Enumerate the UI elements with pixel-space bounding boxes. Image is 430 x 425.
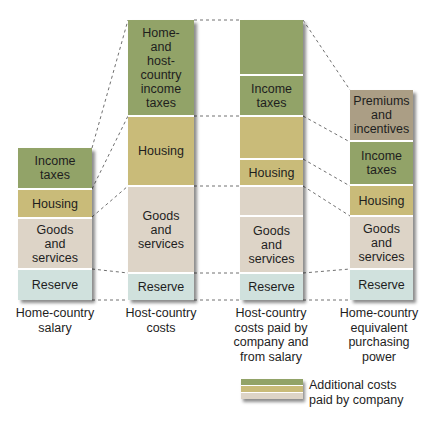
caption-host-country-costs: Host-countrycosts [108, 306, 214, 335]
segment-housing-paid-by-company [240, 117, 303, 158]
segment-housing: Housing [240, 160, 303, 185]
segment-premiums-and-incentives: Premiumsandincentives [350, 90, 413, 140]
segment-label: Reserve [358, 278, 405, 292]
segment-label: Goodsandservices [32, 223, 78, 265]
segment-label: Goodsandservices [249, 224, 295, 266]
segment-income-taxes: Incometaxes [18, 148, 92, 188]
segment-reserve: Reserve [350, 270, 413, 300]
segment-label: Home-andhost-countryincometaxes [141, 26, 182, 110]
segment-income-taxes: Incometaxes [350, 142, 413, 184]
segment-goods-and-services: Goodsandservices [128, 187, 194, 272]
segment-income-taxes: Home-andhost-countryincometaxes [128, 20, 194, 115]
segment-label: Premiumsandincentives [353, 94, 409, 136]
segment-label: Reserve [32, 278, 79, 292]
segment-label: Housing [32, 197, 78, 211]
segment-goods-and-services: Goodsandservices [18, 219, 92, 268]
bar-home-country-salary: Incometaxes Housing Goodsandservices Res… [18, 148, 92, 300]
legend-label: Additional costspaid by company [309, 378, 404, 407]
legend-swatch-beige [241, 393, 303, 399]
segment-label: Incometaxes [251, 82, 292, 110]
segment-label: Reserve [248, 280, 295, 294]
segment-reserve: Reserve [18, 270, 92, 300]
legend-swatch-tan [241, 386, 303, 392]
legend-swatch-green [241, 379, 303, 385]
segment-label: Goodsandservices [138, 209, 184, 251]
segment-housing: Housing [128, 117, 194, 185]
segment-housing: Housing [18, 190, 92, 217]
segment-label: Incometaxes [361, 149, 402, 177]
segment-label: Housing [249, 166, 295, 180]
segment-label: Incometaxes [35, 154, 76, 182]
segment-goods-and-services-paid-by-company [240, 187, 303, 215]
bar-home-country-equivalent: Premiumsandincentives Incometaxes Housin… [350, 90, 413, 300]
segment-label: Housing [138, 144, 184, 158]
caption-host-country-costs-split: Host-countrycosts paid bycompany andfrom… [218, 306, 324, 364]
segment-label: Reserve [138, 280, 185, 294]
segment-label: Housing [359, 194, 405, 208]
segment-label: Goodsandservices [359, 222, 405, 264]
segment-goods-and-services: Goodsandservices [240, 217, 303, 272]
legend-swatch [241, 379, 303, 399]
bar-host-country-costs-split: Incometaxes Housing Goodsandservices Res… [240, 20, 303, 300]
segment-income-taxes-paid-by-company [240, 20, 303, 74]
segment-income-taxes: Incometaxes [240, 76, 303, 115]
caption-home-country-salary: Home-countrysalary [0, 306, 110, 335]
bar-host-country-costs: Home-andhost-countryincometaxes Housing … [128, 20, 194, 300]
segment-reserve: Reserve [240, 274, 303, 300]
caption-home-country-equivalent: Home-countryequivalentpurchasingpower [328, 306, 430, 364]
segment-goods-and-services: Goodsandservices [350, 217, 413, 268]
segment-housing: Housing [350, 186, 413, 215]
segment-reserve: Reserve [128, 274, 194, 300]
